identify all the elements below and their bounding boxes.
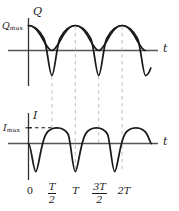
x-tick-three-half-period: 3T 2 [90, 182, 109, 205]
x-tick-three-half-period-denominator: 2 [92, 194, 107, 205]
charge-time-axis-label: t [163, 43, 167, 54]
x-tick-half-period-numerator: T [48, 182, 57, 194]
charge-amplitude-label: Qmax [2, 21, 23, 31]
current-panel [8, 113, 158, 180]
x-tick-two-period: 2T [116, 186, 132, 196]
x-tick-zero: 0 [25, 186, 35, 196]
charge-amplitude-symbol: Q [2, 20, 10, 31]
x-tick-half-period: T 2 [45, 182, 59, 205]
current-amplitude-label: Imax [3, 123, 20, 133]
current-curve [29, 128, 152, 172]
x-tick-half-period-denominator: 2 [48, 194, 57, 205]
lc-oscillation-figure: Q Qmax t I Imax t 0 T 2 T 3T 2 2T [0, 0, 179, 211]
x-tick-period: T [70, 186, 81, 196]
charge-panel [8, 18, 158, 86]
charge-axis-label: Q [33, 6, 42, 17]
current-time-axis-label: t [163, 136, 167, 147]
x-tick-three-half-period-numerator: 3T [92, 182, 107, 194]
guide-lines [52, 26, 122, 169]
figure-canvas [0, 0, 179, 211]
current-amplitude-subscript: max [7, 126, 20, 133]
charge-amplitude-subscript: max [10, 24, 23, 31]
current-axis-label: I [33, 110, 37, 121]
